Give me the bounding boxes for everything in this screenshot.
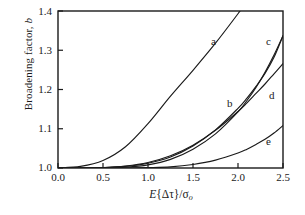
y-axis-title: Broadening factor, b [22,0,34,144]
x-axis-title: E{Δτ}/σo [58,188,284,202]
curve-label-d: d [269,89,275,101]
curve-label-c: c [266,35,271,47]
x-tick-label-1.5: 1.5 [178,171,208,183]
x-tick-label-2.5: 2.5 [268,171,298,183]
x-tick-label-0.5: 0.5 [88,171,118,183]
plot-frame [58,11,283,168]
chart-figure: 1.4 1.3 1.2 1.1 1.0 0.0 0.5 1.0 1.5 2.0 … [0,0,305,215]
curve-label-b: b [227,97,233,109]
curve-label-e: e [266,135,271,147]
x-tick-label-2.0: 2.0 [223,171,253,183]
x-tick-label-0.0: 0.0 [43,171,73,183]
x-tick-label-1.0: 1.0 [133,171,163,183]
curve-label-a: a [211,35,216,47]
